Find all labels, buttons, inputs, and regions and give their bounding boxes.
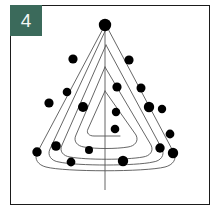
ornament-dot	[112, 108, 120, 116]
ornament-dot	[144, 102, 154, 112]
ornament-dot	[67, 158, 76, 167]
ornament-dot	[32, 147, 41, 156]
figure-index-badge: 4	[10, 5, 42, 36]
ornament-dot	[111, 125, 120, 134]
ornament-dot	[85, 146, 93, 154]
figure-panel: 4	[0, 0, 221, 221]
ornament-dot	[68, 54, 77, 63]
ornament-dot	[155, 143, 164, 152]
ornament-dot	[63, 88, 72, 97]
ornament-dot	[118, 156, 128, 166]
ornament-dot	[137, 84, 146, 93]
figure-index-number: 4	[21, 11, 32, 30]
ornament-dot	[168, 148, 178, 158]
ornament-dot	[112, 82, 121, 91]
ornament-dot	[166, 130, 175, 139]
ornament-dot	[99, 19, 111, 31]
ornament-dot	[44, 98, 53, 107]
ornament-dot	[158, 105, 166, 113]
ornament-dot	[124, 55, 133, 64]
ornament-dot	[51, 141, 61, 151]
ornament-dot	[78, 102, 88, 112]
